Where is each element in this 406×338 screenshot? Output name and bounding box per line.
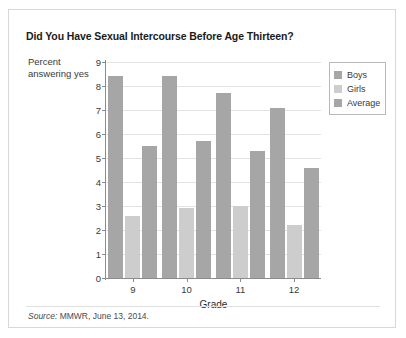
y-tick-label: 8 [96,81,101,92]
bar-average-grade-10 [196,141,211,278]
bar-boys-grade-10 [162,76,177,278]
bar-average-grade-12 [304,168,319,278]
y-tick-label: 5 [96,153,101,164]
x-tick-mark [133,278,134,282]
y-tick-label: 1 [96,249,101,260]
source-text: MMWR, June 13, 2014. [57,311,149,321]
x-axis-title: Grade [106,299,321,310]
bar-boys-grade-9 [108,76,123,278]
legend-swatch-icon [334,99,342,107]
y-tick-mark [102,134,106,135]
y-tick-mark [102,110,106,111]
x-tick-label: 10 [181,284,192,295]
y-tick-label: 3 [96,201,101,212]
bar-boys-grade-11 [216,93,231,278]
y-tick-label: 9 [96,57,101,68]
x-tick-label: 12 [289,284,300,295]
source-note: Source: MMWR, June 13, 2014. [28,311,149,321]
x-tick-mark [187,278,188,282]
legend-label: Boys [347,70,367,80]
x-tick-mark [294,278,295,282]
chart-legend: BoysGirlsAverage [329,62,386,115]
bar-girls-grade-9 [125,216,140,278]
y-tick-mark [102,158,106,159]
legend-label: Girls [347,84,366,94]
bar-girls-grade-11 [233,206,248,278]
bar-boys-grade-12 [270,108,285,278]
gridline [106,86,321,87]
source-divider [26,306,380,307]
y-tick-mark [102,278,106,279]
y-tick-mark [102,62,106,63]
x-tick-label: 11 [235,284,245,295]
bar-girls-grade-10 [179,208,194,278]
y-tick-label: 6 [96,129,101,140]
y-tick-label: 7 [96,105,101,116]
x-axis-line [105,278,321,279]
bar-average-grade-11 [250,151,265,278]
gridline [106,158,321,159]
legend-swatch-icon [334,71,342,79]
y-tick-mark [102,206,106,207]
y-tick-mark [102,254,106,255]
y-tick-mark [102,86,106,87]
y-tick-mark [102,230,106,231]
legend-item-boys[interactable]: Boys [334,68,380,81]
y-tick-label: 4 [96,177,101,188]
legend-swatch-icon [334,85,342,93]
chart-figure: Did You Have Sexual Intercourse Before A… [8,9,396,328]
x-tick-label: 9 [130,284,135,295]
plot-area: 0123456789 9101112 [106,62,321,278]
legend-item-girls[interactable]: Girls [334,82,380,95]
y-axis-title: Percent answering yes [28,56,90,79]
legend-label: Average [347,98,380,108]
chart-title: Did You Have Sexual Intercourse Before A… [26,30,294,42]
x-tick-mark [240,278,241,282]
y-axis-line [105,60,106,280]
gridline [106,62,321,63]
y-tick-label: 0 [96,273,101,284]
gridline [106,134,321,135]
y-tick-label: 2 [96,225,101,236]
gridline [106,182,321,183]
gridline [106,206,321,207]
gridline [106,110,321,111]
y-tick-mark [102,182,106,183]
source-label: Source: [28,311,57,321]
bar-girls-grade-12 [287,225,302,278]
legend-item-average[interactable]: Average [334,96,380,109]
bar-average-grade-9 [142,146,157,278]
